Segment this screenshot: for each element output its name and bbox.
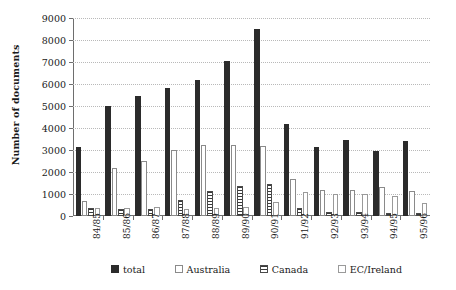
legend-item-canada: Canada	[260, 264, 308, 275]
bar	[314, 147, 320, 216]
y-axis-tick-label: 6000	[42, 79, 66, 90]
x-axis-tick-label: 95/96	[419, 213, 429, 259]
bar	[284, 124, 290, 216]
y-axis-tick-label: 0	[60, 211, 66, 222]
bar	[320, 190, 326, 216]
bar	[141, 161, 147, 216]
bar	[135, 96, 141, 216]
bar-group	[311, 18, 341, 216]
plot-area: 0100020003000400050006000700080009000	[73, 18, 430, 216]
x-axis-tick-label: 86/87	[151, 213, 161, 259]
bar-group	[103, 18, 133, 216]
x-axis-tick-labels: 84/8585/8686/8787/8888/8989/9090/9191/92…	[73, 219, 430, 259]
legend-item-ec: EC/Ireland	[338, 264, 402, 275]
bar	[373, 151, 379, 216]
y-axis-tick	[69, 216, 73, 217]
bar	[195, 80, 201, 216]
y-axis-tick-label: 8000	[42, 35, 66, 46]
bar-group	[371, 18, 401, 216]
x-axis-tick-label: 91/92	[300, 213, 310, 259]
bar-group	[73, 18, 103, 216]
bar	[171, 150, 177, 216]
legend-item-label: Australia	[187, 264, 231, 275]
bar-group	[252, 18, 282, 216]
y-axis-tick-label: 7000	[42, 57, 66, 68]
bar-group	[192, 18, 222, 216]
bar	[82, 201, 88, 216]
x-axis-tick-label: 89/90	[241, 213, 251, 259]
australia-swatch-icon	[175, 265, 183, 273]
legend-item-australia: Australia	[175, 264, 231, 275]
bar	[403, 141, 409, 216]
y-axis-tick-label: 2000	[42, 167, 66, 178]
bar-group	[162, 18, 192, 216]
plot-inner: 0100020003000400050006000700080009000	[73, 18, 430, 216]
y-axis-tick-label: 1000	[42, 189, 66, 200]
bar	[409, 191, 415, 216]
bar	[350, 190, 356, 216]
total-swatch-icon	[111, 265, 119, 273]
bar	[267, 184, 273, 216]
x-axis-tick-label: 93/94	[360, 213, 370, 259]
bar-group	[341, 18, 371, 216]
bar	[254, 29, 260, 216]
legend-item-label: Canada	[272, 264, 308, 275]
bar	[237, 186, 243, 216]
x-axis-tick-label: 92/93	[330, 213, 340, 259]
y-axis-tick-label: 9000	[42, 13, 66, 24]
x-axis-tick-label: 88/89	[211, 213, 221, 259]
legend-item-label: total	[123, 264, 145, 275]
ec-swatch-icon	[338, 265, 346, 273]
bar	[343, 140, 349, 216]
x-axis-tick-label: 85/86	[122, 213, 132, 259]
bar	[112, 168, 118, 216]
legend-item-label: EC/Ireland	[350, 264, 402, 275]
bar-chart: Number of documents 01000200030004000500…	[0, 0, 456, 290]
bar	[165, 88, 171, 216]
bar-group	[133, 18, 163, 216]
canada-swatch-icon	[260, 265, 268, 273]
bar	[290, 179, 296, 216]
bar-group	[281, 18, 311, 216]
x-axis-tick-label: 84/85	[92, 213, 102, 259]
x-axis-tick-label: 90/91	[270, 213, 280, 259]
y-axis-tick-label: 3000	[42, 145, 66, 156]
bar-group	[222, 18, 252, 216]
bar	[201, 145, 207, 217]
y-axis-tick-label: 5000	[42, 101, 66, 112]
x-axis-tick-label: 87/88	[181, 213, 191, 259]
bar	[379, 187, 385, 216]
x-axis-tick-label: 94/95	[389, 213, 399, 259]
bar	[76, 147, 82, 216]
bar-group	[400, 18, 430, 216]
legend-item-total: total	[111, 264, 145, 275]
bar	[260, 146, 266, 216]
bar	[224, 61, 230, 216]
bar	[231, 145, 237, 217]
bar	[105, 106, 111, 216]
y-axis-title: Number of documents	[10, 20, 24, 190]
y-axis-tick-label: 4000	[42, 123, 66, 134]
chart-legend: totalAustraliaCanadaEC/Ireland	[73, 261, 430, 277]
